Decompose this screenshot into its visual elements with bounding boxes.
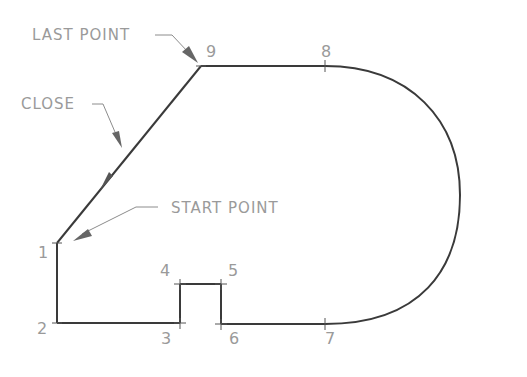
- close-direction-arrow-icon: [100, 172, 113, 190]
- label-last-point: LAST POINT: [32, 26, 130, 44]
- vertex-label-8: 8: [321, 42, 331, 61]
- leader-close: [92, 104, 115, 132]
- vertex-label-5: 5: [228, 261, 238, 280]
- vertex-label-1: 1: [38, 243, 48, 262]
- vertex-label-4: 4: [160, 261, 170, 280]
- vertex-ticks: [52, 60, 325, 330]
- arrowhead-close-icon: [112, 131, 122, 148]
- label-close: CLOSE: [21, 95, 75, 113]
- leader-start-point: [82, 207, 158, 234]
- segment-7-8-arc: [325, 66, 460, 324]
- vertex-label-9: 9: [206, 42, 216, 61]
- leader-last-point: [155, 35, 188, 52]
- vertex-label-2: 2: [37, 319, 47, 338]
- label-start-point: START POINT: [171, 199, 279, 217]
- vertex-label-6: 6: [229, 329, 239, 348]
- diagram-canvas: LAST POINT CLOSE START POINT 1 2 3 4 5 6…: [0, 0, 527, 377]
- polyline-outline: [57, 66, 460, 324]
- vertex-label-3: 3: [161, 329, 171, 348]
- vertex-label-7: 7: [325, 329, 335, 348]
